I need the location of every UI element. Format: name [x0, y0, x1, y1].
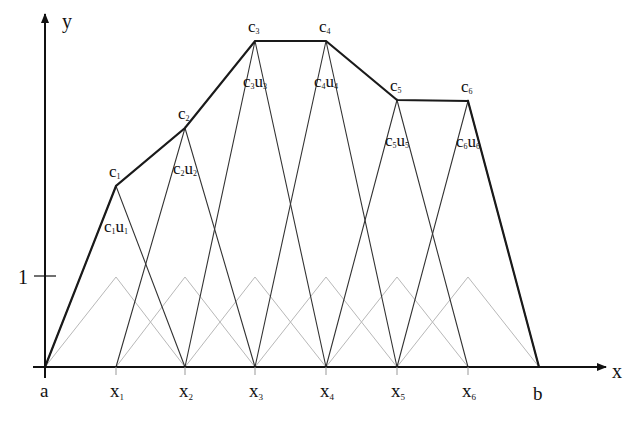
coef-label-c5: c5 [390, 76, 402, 95]
node-label-x2: x2 [179, 380, 193, 402]
x-axis-label: x [612, 360, 622, 382]
unit-hat-2 [116, 277, 255, 367]
unit-hat-5 [326, 277, 468, 367]
end-label-b: b [533, 383, 543, 404]
unit-hat-4 [255, 277, 397, 367]
node-label-x5: x5 [391, 380, 406, 402]
product-label-c4u4: c4u4 [314, 72, 338, 91]
coef-label-c2: c2 [178, 104, 190, 123]
coefficient-labels: c1c1u1c2c2u2c3c3u3c4c4u4c5c5u5c6c6u6 [104, 17, 480, 236]
coef-label-c3: c3 [248, 17, 260, 36]
coef-label-c4: c4 [319, 17, 331, 36]
unit-hat-1 [45, 277, 185, 367]
unit-hat-3 [185, 277, 326, 367]
origin-label-a: a [40, 380, 49, 401]
coef-label-c1: c1 [109, 162, 121, 181]
product-label-c3u3: c3u3 [243, 72, 267, 91]
product-label-c2u2: c2u2 [173, 159, 197, 178]
node-labels: x1x2x3x4x5x6 [110, 367, 477, 402]
node-label-x6: x6 [462, 380, 477, 402]
node-label-x4: x4 [320, 380, 335, 402]
unit-tick-label: 1 [18, 266, 28, 288]
piecewise-linear-basis-diagram: x y 1 a b x1x2x3x4x5x6 c1c1u1c2c2u2c3c3u… [0, 0, 637, 423]
node-label-x3: x3 [249, 380, 264, 402]
node-label-x1: x1 [110, 380, 124, 402]
product-label-c1u1: c1u1 [104, 217, 128, 236]
y-axis-label: y [62, 10, 72, 33]
coef-label-c6: c6 [461, 77, 473, 96]
